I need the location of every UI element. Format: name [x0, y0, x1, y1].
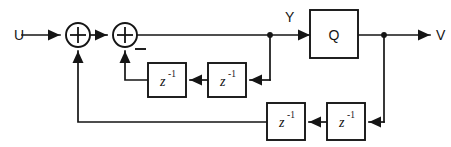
delay-block-upper-right-label: z — [219, 74, 226, 89]
summing-junction-1 — [66, 23, 90, 47]
arrowhead-upper-left-delay-input — [190, 75, 202, 86]
delay-block-upper-left-exponent: -1 — [168, 69, 176, 79]
delay-block-upper-left[interactable]: z -1 — [148, 63, 186, 97]
delay-block-lower-right-box[interactable] — [327, 103, 365, 140]
summing-junction-2 — [113, 23, 146, 49]
quantizer-block[interactable]: Q — [310, 10, 358, 58]
delay-block-upper-right[interactable]: z -1 — [208, 63, 246, 97]
wire-upper-left-delay-to-sum2 — [125, 51, 148, 80]
block-diagram-canvas: Q z -1 z -1 z -1 z -1 U Y — [0, 0, 451, 147]
quantizer-block-label: Q — [329, 27, 340, 43]
intermediate-signal-label: Y — [285, 9, 295, 25]
arrowhead-upper-right-delay-input — [250, 75, 262, 86]
delay-block-lower-left-label: z — [278, 115, 285, 130]
delay-block-lower-right-label: z — [338, 115, 345, 130]
delay-block-lower-right[interactable]: z -1 — [327, 103, 365, 140]
junction-dot-v — [381, 32, 387, 38]
arrowhead-lower-left-delay-input — [309, 117, 321, 128]
junction-dot-y — [267, 32, 273, 38]
arrowhead-output — [418, 30, 430, 41]
arrowhead-sum1-feedback — [73, 51, 84, 63]
arrowhead-sum2-feedback — [120, 51, 131, 63]
delay-block-upper-right-exponent: -1 — [228, 69, 236, 79]
delay-block-upper-right-box[interactable] — [208, 63, 246, 97]
arrowhead-lower-right-delay-input — [369, 117, 381, 128]
arrowhead-quantizer-input — [298, 30, 310, 41]
output-signal-label: V — [436, 27, 446, 43]
arrowhead-sum2-input — [95, 30, 107, 41]
delay-block-lower-left-exponent: -1 — [287, 110, 295, 120]
delay-block-lower-left-box[interactable] — [267, 103, 305, 140]
delay-block-upper-left-label: z — [159, 74, 166, 89]
delay-block-lower-right-exponent: -1 — [347, 110, 355, 120]
input-signal-label: U — [14, 27, 24, 43]
arrowhead-input — [48, 30, 60, 41]
delay-block-lower-left[interactable]: z -1 — [267, 103, 305, 140]
delay-block-upper-left-box[interactable] — [148, 63, 186, 97]
block-diagram-figure: Q z -1 z -1 z -1 z -1 U Y — [0, 0, 451, 147]
